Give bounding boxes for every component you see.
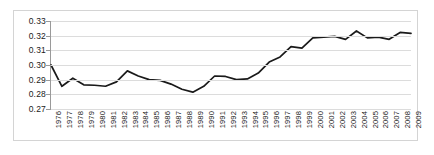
- y-axis-tick-label: 0.33: [29, 16, 46, 26]
- x-axis-tick-label: 1989: [196, 111, 205, 128]
- x-axis-tick-label: 2008: [403, 111, 412, 128]
- x-axis-tick-label: 2002: [338, 111, 347, 128]
- y-axis-tick-label: 0.30: [29, 60, 46, 70]
- y-axis-tick-mark: [46, 80, 51, 81]
- x-axis-tick-label: 1993: [240, 111, 249, 128]
- x-axis-tick-label: 1994: [251, 111, 260, 128]
- x-axis-tick-label: 1998: [294, 111, 303, 128]
- x-axis-tick-label: 1984: [141, 111, 150, 128]
- x-axis-tick-label: 1982: [120, 111, 129, 128]
- x-axis-tick-label: 2004: [360, 111, 369, 128]
- x-axis-tick-label: 1980: [98, 111, 107, 128]
- x-axis-tick-label: 1995: [261, 111, 270, 128]
- x-axis-tick-label: 1979: [87, 111, 96, 128]
- gridline: [51, 109, 411, 110]
- x-axis-tick-label: 1990: [207, 111, 216, 128]
- y-axis-tick-label: 0.31: [29, 45, 46, 55]
- x-axis-tick-label: 1987: [174, 111, 183, 128]
- x-axis-tick-label: 1997: [283, 111, 292, 128]
- x-axis-tick-label: 2005: [371, 111, 380, 128]
- y-axis-tick-label: 0.32: [29, 31, 46, 41]
- gridline: [51, 36, 411, 37]
- x-axis-tick-label: 1976: [54, 111, 63, 128]
- series-polyline: [51, 31, 411, 92]
- x-axis-tick-label: 2006: [381, 111, 390, 128]
- x-axis-tick-label: 1977: [65, 111, 74, 128]
- x-axis-tick-label: 2001: [327, 111, 336, 128]
- y-axis-tick-label: 0.27: [29, 104, 46, 114]
- y-axis: 0.330.320.310.300.290.280.27: [14, 11, 48, 142]
- y-axis-tick-mark: [46, 36, 51, 37]
- y-axis-tick-mark: [46, 65, 51, 66]
- x-axis-tick-label: 1985: [152, 111, 161, 128]
- y-axis-tick-mark: [46, 21, 51, 22]
- gridline: [51, 94, 411, 95]
- x-axis-tick-label: 2009: [414, 111, 423, 128]
- x-axis-tick-label: 1978: [76, 111, 85, 128]
- x-axis-tick-label: 2003: [349, 111, 358, 128]
- x-axis-tick-label: 1991: [218, 111, 227, 128]
- x-axis-tick-label: 1988: [185, 111, 194, 128]
- x-axis-tick-label: 1999: [305, 111, 314, 128]
- x-axis-tick-label: 1992: [229, 111, 238, 128]
- x-axis-tick-label: 1983: [131, 111, 140, 128]
- x-axis-tick-label: 1996: [272, 111, 281, 128]
- y-axis-tick-mark: [46, 50, 51, 51]
- x-axis: 1976197719781979198019811982198319841985…: [51, 111, 411, 141]
- x-axis-tick-label: 1981: [109, 111, 118, 128]
- chart-container: 0.330.320.310.300.290.280.27 19761977197…: [13, 10, 418, 141]
- y-axis-tick-mark: [46, 109, 51, 110]
- x-axis-tick-label: 2000: [316, 111, 325, 128]
- plot-area: [51, 21, 411, 109]
- y-axis-tick-label: 0.29: [29, 75, 46, 85]
- x-axis-tick-label: 2007: [392, 111, 401, 128]
- y-axis-tick-label: 0.28: [29, 89, 46, 99]
- y-axis-tick-mark: [46, 94, 51, 95]
- gridline: [51, 50, 411, 51]
- gridline: [51, 21, 411, 22]
- x-axis-tick-label: 1986: [163, 111, 172, 128]
- gridline: [51, 80, 411, 81]
- gridline: [51, 65, 411, 66]
- plot-wrapper: 0.330.320.310.300.290.280.27 19761977197…: [14, 11, 419, 142]
